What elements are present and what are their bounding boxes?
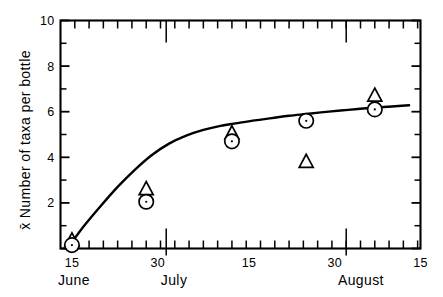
x-tick-label: 30 <box>150 256 165 270</box>
triangle-marker <box>368 88 382 101</box>
x-axis-tick-labels: 1530153015 <box>65 256 428 270</box>
x-axis-month-labels: JuneJulyAugust <box>58 272 384 288</box>
x-month-label: June <box>58 272 90 288</box>
x-tick-label: 15 <box>242 256 257 270</box>
triangle-marker <box>299 154 313 167</box>
circle-marker-center-dot <box>374 108 376 110</box>
circle-marker-center-dot <box>305 120 307 122</box>
triangle-marker <box>139 182 153 195</box>
x-tick-label: 15 <box>65 256 80 270</box>
fitted-curve <box>69 105 409 246</box>
y-axis-title: x̄ Number of taxa per bottle <box>17 50 33 230</box>
y-tick-label: 8 <box>47 60 54 74</box>
x-axis-ticks <box>75 21 418 249</box>
y-tick-label: 6 <box>47 105 54 119</box>
y-axis-title-group: x̄ Number of taxa per bottle <box>17 50 33 230</box>
taxa-per-bottle-scatter-chart: 246810 1530153015 JuneJulyAugust x̄ Numb… <box>0 0 443 297</box>
x-month-label: August <box>338 272 384 288</box>
x-tick-label: 30 <box>328 256 343 270</box>
circle-marker-center-dot <box>231 140 233 142</box>
x-axis-month-boundaries <box>166 21 346 256</box>
y-axis-tick-labels: 246810 <box>40 14 55 210</box>
chart-figure: 246810 1530153015 JuneJulyAugust x̄ Numb… <box>0 0 443 297</box>
circle-marker-center-dot <box>145 201 147 203</box>
y-axis-ticks <box>61 21 421 249</box>
axes-box <box>61 21 421 249</box>
x-tick-label: 15 <box>413 256 428 270</box>
plot-frame <box>61 21 421 249</box>
circle-marker-center-dot <box>71 244 73 246</box>
y-tick-label: 10 <box>40 14 55 28</box>
y-tick-label: 2 <box>47 196 54 210</box>
x-month-label: July <box>161 272 188 288</box>
y-tick-label: 4 <box>47 151 54 165</box>
